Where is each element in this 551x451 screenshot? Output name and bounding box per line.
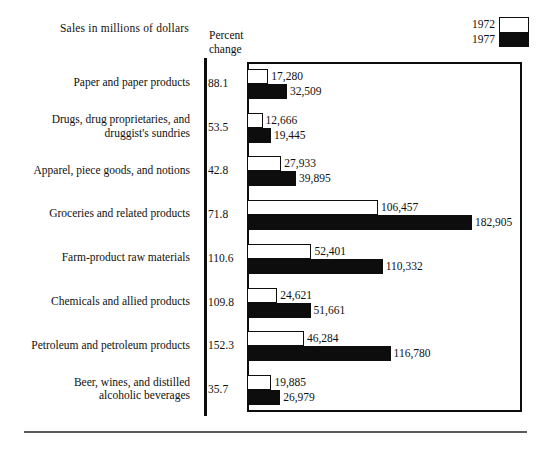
bars-layer: 17,28032,50912,66619,44527,93339,895106,… bbox=[247, 62, 522, 412]
bar-1977 bbox=[247, 390, 280, 405]
bar-1977 bbox=[247, 259, 383, 274]
category-label: Beer, wines, and distilledalcoholic beve… bbox=[0, 376, 198, 403]
bar-1977 bbox=[247, 215, 472, 230]
percent-change-value: 110.6 bbox=[208, 252, 244, 264]
bar-1972 bbox=[247, 375, 271, 390]
percent-change-caption: Percent change bbox=[209, 29, 269, 56]
legend: 1972 1977 bbox=[472, 17, 529, 47]
bar-value-1972: 24,621 bbox=[280, 288, 312, 303]
percent-change-value: 35.7 bbox=[208, 383, 244, 395]
percent-change-caption-line2: change bbox=[209, 43, 269, 57]
category-label: Farm-product raw materials bbox=[0, 251, 198, 265]
bar-value-1972: 12,666 bbox=[266, 113, 298, 128]
bar-1977 bbox=[247, 84, 287, 99]
bar-value-1977: 51,661 bbox=[314, 303, 346, 318]
legend-swatch-1977 bbox=[500, 33, 528, 47]
bar-value-1972: 27,933 bbox=[284, 156, 316, 171]
bar-1972 bbox=[247, 331, 304, 346]
category-label-line: druggist's sundries bbox=[0, 127, 190, 141]
bar-value-1977: 26,979 bbox=[283, 390, 315, 405]
bar-1972 bbox=[247, 69, 268, 84]
bar-1972 bbox=[247, 244, 311, 259]
category-label: Petroleum and petroleum products bbox=[0, 339, 198, 353]
bar-value-1977: 110,332 bbox=[386, 259, 423, 274]
percent-change-value: 88.1 bbox=[208, 77, 244, 89]
category-label-line: Beer, wines, and distilled bbox=[0, 376, 190, 390]
category-label-line: alcoholic beverages bbox=[0, 389, 190, 403]
bar-1977 bbox=[247, 346, 391, 361]
legend-label-1977: 1977 bbox=[472, 32, 495, 47]
legend-swatch-1972 bbox=[500, 18, 528, 33]
category-label-column: Paper and paper productsDrugs, drug prop… bbox=[0, 62, 198, 412]
percent-change-value: 42.8 bbox=[208, 164, 244, 176]
percent-change-value: 109.8 bbox=[208, 296, 244, 308]
legend-swatch-box bbox=[499, 17, 529, 47]
bar-1972 bbox=[247, 200, 378, 215]
category-label: Paper and paper products bbox=[0, 76, 198, 90]
bar-value-1977: 182,905 bbox=[475, 215, 512, 230]
category-label: Groceries and related products bbox=[0, 207, 198, 221]
bar-value-1972: 106,457 bbox=[381, 200, 418, 215]
figure-container: Sales in millions of dollars Percent cha… bbox=[0, 0, 551, 451]
bar-value-1977: 39,895 bbox=[299, 171, 331, 186]
percent-change-column: 88.153.542.871.8110.6109.8152.335.7 bbox=[208, 62, 248, 412]
category-label-line: Farm-product raw materials bbox=[0, 251, 190, 265]
category-label-line: Apparel, piece goods, and notions bbox=[0, 164, 190, 178]
footer-rule bbox=[24, 431, 527, 433]
percent-change-value: 152.3 bbox=[208, 339, 244, 351]
category-label: Apparel, piece goods, and notions bbox=[0, 164, 198, 178]
bar-1972 bbox=[247, 113, 263, 128]
bar-1977 bbox=[247, 128, 271, 143]
bar-1977 bbox=[247, 171, 296, 186]
legend-labels: 1972 1977 bbox=[472, 17, 495, 47]
category-label-line: Petroleum and petroleum products bbox=[0, 339, 190, 353]
bar-1972 bbox=[247, 288, 277, 303]
bar-value-1977: 19,445 bbox=[274, 128, 306, 143]
bar-value-1972: 17,280 bbox=[271, 69, 303, 84]
category-label-line: Drugs, drug proprietaries, and bbox=[0, 113, 190, 127]
bar-value-1977: 32,509 bbox=[290, 84, 322, 99]
bar-value-1977: 116,780 bbox=[394, 346, 431, 361]
bar-value-1972: 19,885 bbox=[274, 375, 306, 390]
category-label-line: Paper and paper products bbox=[0, 76, 190, 90]
bar-1972 bbox=[247, 156, 281, 171]
category-label: Drugs, drug proprietaries, anddruggist's… bbox=[0, 113, 198, 140]
bar-1977 bbox=[247, 303, 311, 318]
percent-change-caption-line1: Percent bbox=[209, 29, 269, 43]
vertical-separator-rule bbox=[204, 58, 207, 416]
category-label: Chemicals and allied products bbox=[0, 295, 198, 309]
category-label-line: Groceries and related products bbox=[0, 207, 190, 221]
legend-label-1972: 1972 bbox=[472, 17, 495, 32]
bar-value-1972: 46,284 bbox=[307, 331, 339, 346]
percent-change-value: 53.5 bbox=[208, 121, 244, 133]
bar-value-1972: 52,401 bbox=[314, 244, 346, 259]
category-label-line: Chemicals and allied products bbox=[0, 295, 190, 309]
figure-title: Sales in millions of dollars bbox=[60, 22, 189, 34]
percent-change-value: 71.8 bbox=[208, 208, 244, 220]
